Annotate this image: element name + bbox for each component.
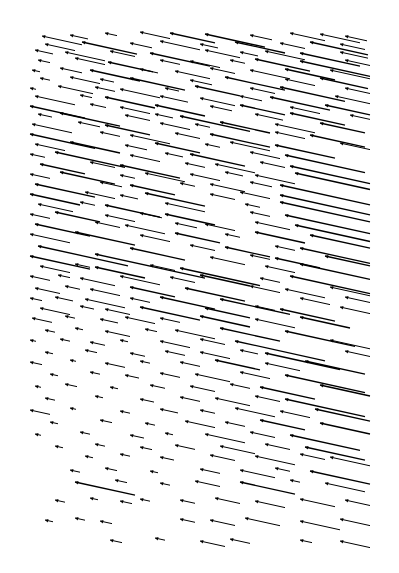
quiver-plot xyxy=(0,0,399,573)
